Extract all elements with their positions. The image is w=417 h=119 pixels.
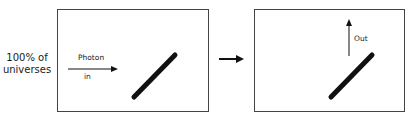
photon-label: Photon [78,53,104,62]
beam-splitter-mirror-icon [134,55,175,97]
photon-in-arrow-icon [68,66,118,72]
diagram-arrows [0,0,417,119]
beam-splitter-mirror-icon [331,55,372,97]
out-label: Out [354,34,368,43]
in-label: in [84,72,91,81]
transition-arrow-icon [219,55,244,63]
photon-out-arrow-icon [346,19,352,56]
